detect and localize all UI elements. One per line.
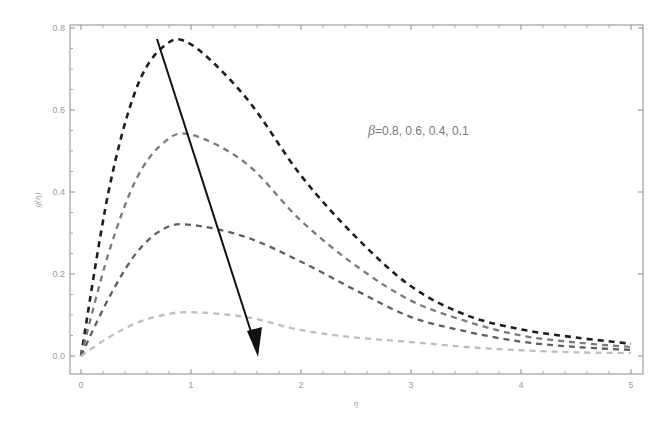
series-line-3 [81, 224, 631, 356]
beta-values: =0.8, 0.6, 0.4, 0.1 [375, 124, 469, 138]
series-line-1 [81, 39, 631, 356]
beta-annotation: β=0.8, 0.6, 0.4, 0.1 [367, 123, 469, 138]
x-axis-ticks: 012345 [78, 25, 633, 390]
x-tick-label: 2 [298, 380, 303, 390]
y-tick-label: 0.8 [52, 23, 65, 33]
series-line-2 [81, 133, 631, 356]
x-tick-label: 3 [408, 380, 413, 390]
x-axis-label: η [354, 398, 359, 408]
y-axis-label: g(η) [32, 193, 42, 208]
chart-canvas: 0.00.20.40.60.8 012345 g(η) η β=0.8, 0.6… [0, 0, 670, 427]
x-tick-label: 5 [628, 380, 633, 390]
decreasing-beta-arrow [157, 39, 262, 357]
series-group [81, 39, 631, 356]
arrow-head-icon [247, 327, 262, 357]
x-tick-label: 4 [518, 380, 523, 390]
y-axis-ticks: 0.00.20.40.60.8 [52, 23, 643, 361]
y-tick-label: 0.0 [52, 351, 65, 361]
plot-frame [70, 25, 643, 374]
y-tick-label: 0.4 [52, 187, 65, 197]
x-tick-label: 0 [78, 380, 83, 390]
y-tick-label: 0.6 [52, 105, 65, 115]
y-tick-label: 0.2 [52, 269, 65, 279]
x-tick-label: 1 [188, 380, 193, 390]
beta-symbol: β [367, 123, 375, 138]
